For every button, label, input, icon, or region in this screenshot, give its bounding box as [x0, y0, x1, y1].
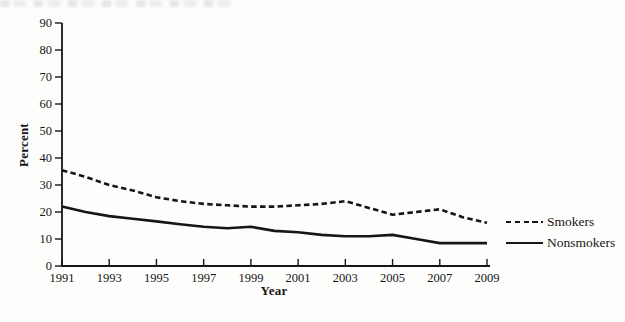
- line-chart-figure: 0102030405060708090199119931995199719992…: [0, 0, 625, 322]
- legend: Smokers Nonsmokers: [506, 215, 615, 250]
- x-tick-label: 1995: [144, 271, 169, 285]
- solid-line-swatch: [506, 242, 543, 245]
- y-tick-label: 80: [40, 43, 53, 57]
- y-tick-label: 60: [40, 97, 53, 111]
- x-tick-label: 1993: [97, 271, 122, 285]
- x-tick-label: 2007: [427, 271, 452, 285]
- legend-label-nonsmokers: Nonsmokers: [547, 236, 615, 250]
- y-tick-label: 50: [40, 124, 53, 138]
- legend-label-smokers: Smokers: [547, 215, 594, 229]
- plot-area: 0102030405060708090199119931995199719992…: [0, 0, 625, 322]
- nonsmokers-line: [62, 207, 487, 244]
- x-tick-label: 1997: [191, 271, 216, 285]
- legend-item-nonsmokers: Nonsmokers: [506, 236, 615, 250]
- y-tick-label: 30: [40, 178, 53, 192]
- y-tick-label: 90: [40, 16, 53, 30]
- dashed-line-swatch: [506, 221, 543, 224]
- y-axis-title: Percent: [16, 123, 32, 167]
- x-tick-label: 2005: [380, 271, 405, 285]
- x-tick-label: 2001: [286, 271, 311, 285]
- legend-item-smokers: Smokers: [506, 215, 615, 229]
- y-tick-label: 40: [40, 151, 53, 165]
- y-tick-label: 10: [40, 232, 53, 246]
- x-tick-label: 2003: [333, 271, 358, 285]
- x-tick-label: 2009: [475, 271, 500, 285]
- x-tick-label: 1991: [50, 271, 75, 285]
- y-tick-label: 70: [40, 70, 53, 84]
- x-axis-title: Year: [261, 283, 288, 299]
- y-tick-label: 20: [40, 205, 53, 219]
- smokers-line: [62, 170, 487, 223]
